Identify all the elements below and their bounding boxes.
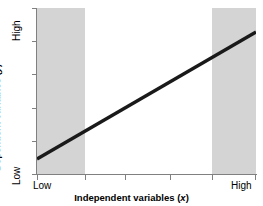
chart-figure: High Low Low High Dependent variables (y… bbox=[0, 0, 263, 206]
y-axis-title-text: Dependent variables ( bbox=[0, 72, 2, 171]
y-axis-tick bbox=[32, 41, 36, 42]
y-axis-tick bbox=[32, 174, 36, 175]
y-axis-title-variable: y bbox=[0, 67, 2, 72]
y-axis-tick bbox=[32, 141, 36, 142]
x-axis-label-high: High bbox=[231, 180, 252, 191]
plot-area bbox=[37, 8, 256, 174]
y-axis-title-close: ) bbox=[0, 64, 2, 67]
y-axis-label-high: High bbox=[11, 20, 22, 41]
x-axis-tick bbox=[212, 175, 213, 180]
y-axis-tick bbox=[32, 74, 36, 75]
y-axis-tick bbox=[32, 108, 36, 109]
x-axis-tick bbox=[255, 175, 256, 180]
x-axis-tick bbox=[125, 175, 126, 180]
linear-trend-line bbox=[37, 32, 256, 159]
x-axis-title-text: Independent variables ( bbox=[74, 192, 180, 203]
trend-line-svg bbox=[37, 8, 256, 174]
x-axis-title-close: ) bbox=[186, 192, 189, 203]
y-axis-line bbox=[36, 8, 37, 175]
y-axis-label-low: Low bbox=[11, 167, 22, 185]
x-axis-line bbox=[36, 174, 257, 175]
x-axis-label-low: Low bbox=[33, 180, 51, 191]
y-axis-title: Dependent variables (y) bbox=[0, 64, 2, 171]
x-axis-tick bbox=[170, 175, 171, 180]
x-axis-title: Independent variables (x) bbox=[0, 192, 263, 203]
y-axis-tick bbox=[32, 8, 36, 9]
x-axis-tick bbox=[85, 175, 86, 180]
